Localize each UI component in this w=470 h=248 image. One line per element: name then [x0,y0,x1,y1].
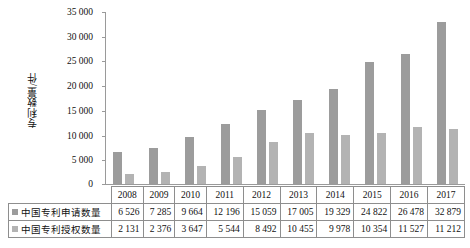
table-row: 中国专利授权数量 2 1312 3763 6475 5448 49210 455… [9,221,465,238]
table-value-cell: 10 354 [354,221,391,238]
legend-swatch-applications-icon [12,209,18,215]
bar [329,89,338,184]
table-row: 中国专利申请数量 6 5267 2859 66412 19615 05917 0… [9,204,465,221]
table-value-cell: 26 478 [391,204,428,221]
bar [113,152,122,184]
plot-area: 35 000 30 000 25 000 20 000 15 000 10 00… [105,12,465,185]
table-year-header: 2011 [206,187,243,204]
bar [269,142,278,184]
table-year-header: 2012 [243,187,280,204]
y-axis-label: 15 000 [67,106,93,116]
y-axis-label: 30 000 [67,32,93,42]
table-value-cell: 12 196 [206,204,243,221]
table-value-cell: 19 329 [317,204,354,221]
table-year-header: 2009 [143,187,175,204]
table-value-cell: 2 376 [143,221,175,238]
table-value-cell: 6 526 [112,204,144,221]
bar-group [429,12,465,184]
table-value-cell: 2 131 [112,221,144,238]
y-axis-title: 专利数量/件 [24,30,42,170]
bar [125,174,134,184]
table-corner-cell [9,187,112,204]
bar [161,172,170,184]
table-value-cell: 32 879 [428,204,465,221]
table-value-cell: 11 527 [391,221,428,238]
bar [305,133,314,184]
bar [233,157,242,184]
table-value-cell: 10 455 [280,221,317,238]
bar [293,100,302,184]
bar-group [178,12,214,184]
table-year-header: 2016 [391,187,428,204]
table-value-cell: 9 978 [317,221,354,238]
bar-group [106,12,142,184]
bar-group [321,12,357,184]
bar-group [214,12,250,184]
bar [437,22,446,184]
y-axis-label: 35 000 [67,7,93,17]
bar-group [250,12,286,184]
bar-group [357,12,393,184]
bar [257,110,266,184]
table-value-cell: 17 005 [280,204,317,221]
table-year-header: 2013 [280,187,317,204]
table-value-cell: 11 212 [428,221,465,238]
table-year-header: 2008 [112,187,144,204]
legend-item-applications: 中国专利申请数量 [9,204,112,221]
y-axis-label: 5 000 [72,155,93,165]
y-tick-mark [102,184,106,185]
data-table: 2008200920102011201220132014201520162017… [8,186,465,238]
legend-item-granted: 中国专利授权数量 [9,221,112,238]
bar [197,166,206,184]
table-value-cell: 8 492 [243,221,280,238]
bar [149,148,158,184]
bar-group [393,12,429,184]
table-year-header: 2015 [354,187,391,204]
bar [401,54,410,184]
bar-group [142,12,178,184]
legend-label-granted: 中国专利授权数量 [21,225,101,235]
table-year-header: 2017 [428,187,465,204]
table-year-header: 2010 [175,187,207,204]
table-value-cell: 3 647 [175,221,207,238]
bar [365,62,374,184]
x-axis-line [105,184,465,185]
table-value-cell: 7 285 [143,204,175,221]
bar-group [286,12,322,184]
table-value-cell: 5 544 [206,221,243,238]
table-value-cell: 24 822 [354,204,391,221]
bar [341,135,350,184]
bar [185,137,194,184]
legend-label-applications: 中国专利申请数量 [21,208,101,218]
bar-groups [106,12,465,184]
y-axis-label: 25 000 [67,56,93,66]
bar [377,133,386,184]
table-row-years: 2008200920102011201220132014201520162017 [9,187,465,204]
table-value-cell: 9 664 [175,204,207,221]
patent-bar-chart-figure: 专利数量/件 35 000 30 000 25 000 20 000 15 00… [0,0,470,248]
bar [449,129,458,184]
y-axis-label: 10 000 [67,131,93,141]
table-value-cell: 15 059 [243,204,280,221]
table-year-header: 2014 [317,187,354,204]
legend-swatch-granted-icon [12,226,18,232]
bar [221,124,230,184]
bar [413,127,422,184]
y-axis-label: 20 000 [67,81,93,91]
